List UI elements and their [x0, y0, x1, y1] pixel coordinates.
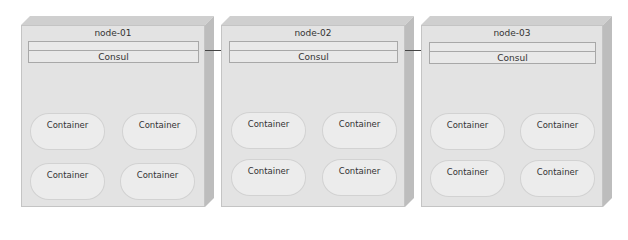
node-title: node-01 — [22, 28, 204, 38]
container[interactable]: Container — [30, 163, 105, 200]
node-01[interactable]: node-01 Consul Container Container Conta… — [21, 25, 205, 207]
consul-service[interactable]: Consul — [429, 42, 596, 64]
container[interactable]: Container — [322, 159, 397, 196]
node-title: node-02 — [222, 28, 404, 38]
node-title: node-03 — [422, 28, 602, 38]
node-03[interactable]: node-03 Consul Container Container Conta… — [421, 25, 603, 207]
container[interactable]: Container — [430, 113, 505, 150]
container[interactable]: Container — [430, 160, 505, 197]
consul-label: Consul — [230, 51, 397, 63]
consul-service[interactable]: Consul — [28, 41, 199, 63]
container[interactable]: Container — [122, 113, 197, 150]
container[interactable]: Container — [30, 113, 105, 150]
container[interactable]: Container — [231, 112, 306, 149]
consul-service[interactable]: Consul — [229, 41, 398, 63]
container[interactable]: Container — [520, 160, 595, 197]
container[interactable]: Container — [520, 113, 595, 150]
container[interactable]: Container — [231, 159, 306, 196]
consul-label: Consul — [29, 51, 198, 63]
container[interactable]: Container — [120, 163, 195, 200]
node-02[interactable]: node-02 Consul Container Container Conta… — [221, 25, 405, 207]
container[interactable]: Container — [322, 112, 397, 149]
consul-label: Consul — [430, 52, 595, 64]
